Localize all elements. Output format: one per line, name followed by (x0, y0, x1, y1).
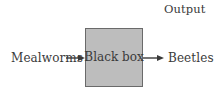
input-arrow-icon (66, 53, 86, 63)
black-box-process: Black box (85, 28, 143, 87)
output-arrow-icon (143, 53, 165, 63)
black-box-label: Black box (84, 50, 143, 65)
output-label-beetles: Beetles (168, 51, 214, 65)
output-column-heading: Output (164, 2, 205, 16)
